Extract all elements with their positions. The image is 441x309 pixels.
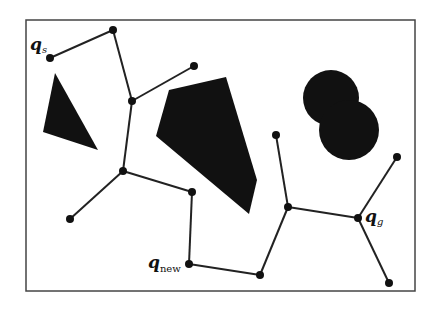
tree-node-n8 (284, 203, 292, 211)
tree-edge (358, 157, 397, 218)
tree-node-qnew (185, 260, 193, 268)
tree-node-n5 (66, 215, 74, 223)
rrt-diagram: qs qg qnew (0, 0, 441, 309)
tree-edge (260, 207, 288, 275)
tree-edge (113, 30, 132, 101)
tree-node-n10 (393, 153, 401, 161)
tree-edge (358, 218, 389, 283)
tree-node-qs (46, 54, 54, 62)
goal-label: qg (365, 206, 383, 227)
tree-node-n7 (256, 271, 264, 279)
tree-edge (288, 207, 358, 218)
tree-node-n1 (109, 26, 117, 34)
tree-edge (123, 101, 132, 171)
tree-edge (189, 264, 260, 275)
tree-edge (123, 171, 192, 192)
tree-node-qg (354, 214, 362, 222)
obstacle-pentagon (156, 77, 257, 214)
obstacle-circle-lower (319, 100, 379, 160)
tree-node-n3 (190, 62, 198, 70)
tree-node-n9 (272, 131, 280, 139)
tree-edge (189, 192, 192, 264)
tree-node-n4 (119, 167, 127, 175)
new-node-label: qnew (148, 252, 181, 274)
tree-node-n11 (385, 279, 393, 287)
tree-edge (276, 135, 288, 207)
tree-edge (70, 171, 123, 219)
obstacles-group (43, 70, 379, 214)
start-label: qs (30, 34, 47, 55)
tree-node-n2 (128, 97, 136, 105)
obstacle-triangle (43, 73, 98, 150)
tree-edge (50, 30, 113, 58)
tree-node-n6 (188, 188, 196, 196)
